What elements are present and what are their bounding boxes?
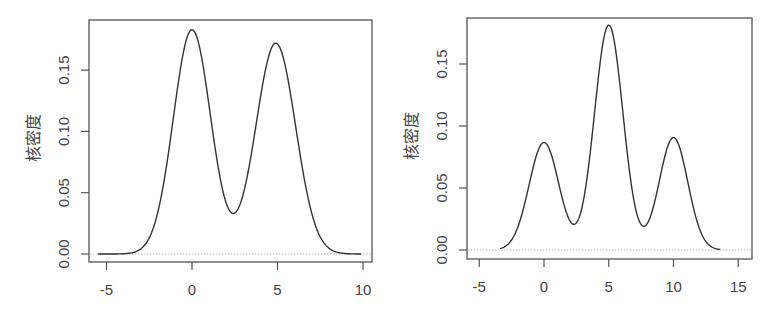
right-y-axis-label: 核密度 [402,112,421,160]
y-tick-label: 0.00 [55,239,72,268]
y-tick-label: 0.00 [433,235,450,264]
right-y-axis: 0.000.050.100.15 [433,49,467,264]
left-y-axis: 0.000.050.100.15 [55,55,89,268]
x-tick-label: 0 [540,278,548,295]
right-density-plot: -5051015 0.000.050.100.15 核密度 [402,18,752,295]
x-tick-label: 15 [730,278,747,295]
x-tick-label: 10 [355,281,372,298]
x-tick-label: 5 [605,278,613,295]
right-x-axis: -5051015 [473,259,747,295]
x-tick-label: 0 [188,281,196,298]
left-x-axis: -50510 [100,262,372,298]
y-tick-label: 0.15 [55,55,72,84]
right-plot-frame [467,18,752,259]
left-density-plot: -50510 0.000.050.100.15 核密度 [24,20,372,298]
x-tick-label: 10 [665,278,682,295]
y-tick-label: 0.10 [433,111,450,140]
y-tick-label: 0.05 [55,178,72,207]
left-y-axis-label: 核密度 [24,114,43,162]
left-plot-frame [89,20,372,262]
x-tick-label: -5 [100,281,113,298]
density-plots-figure: -50510 0.000.050.100.15 核密度 -5051015 0.0… [0,0,768,330]
y-tick-label: 0.05 [433,173,450,202]
right-density-curve [500,25,720,249]
x-tick-label: -5 [473,278,486,295]
x-tick-label: 5 [273,281,281,298]
left-density-curve [98,30,361,254]
y-tick-label: 0.15 [433,49,450,78]
y-tick-label: 0.10 [55,117,72,146]
